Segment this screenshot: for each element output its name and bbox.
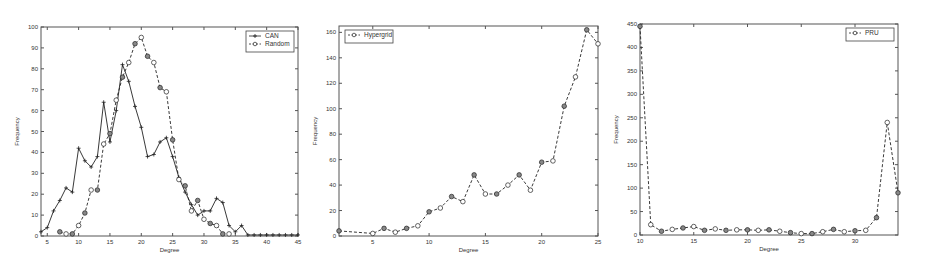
y-tick-label: 350 (627, 68, 638, 74)
chart-panel-can-random: 51015202530354045Degree01020304050607080… (0, 0, 308, 270)
data-point-marker (745, 228, 750, 233)
data-point-marker (370, 231, 375, 236)
data-point-marker (164, 89, 169, 94)
chart-panel-pru: 1015202530Degree050100150200250300350400… (613, 0, 925, 270)
x-tick-label: 10 (637, 238, 644, 244)
y-axis: 020406080100120140160 (326, 29, 598, 239)
y-tick-label: 40 (329, 182, 336, 188)
y-tick-label: 250 (627, 115, 638, 121)
data-point-marker (767, 228, 772, 233)
data-point-marker (89, 188, 94, 193)
x-axis-label: Degree (459, 247, 479, 253)
x-tick-label: 10 (75, 239, 82, 245)
legend-label: PRU (865, 29, 879, 36)
data-point-marker (596, 42, 601, 47)
data-point-marker (382, 226, 387, 231)
y-tick-label: 20 (329, 208, 336, 214)
data-point-marker (539, 160, 544, 165)
data-point-marker (139, 125, 143, 129)
data-point-marker (438, 206, 443, 211)
data-point-marker (83, 211, 88, 216)
data-point-marker (799, 231, 804, 236)
data-point-marker (517, 173, 522, 178)
data-point-marker (670, 227, 675, 232)
x-tick-label: 25 (798, 238, 805, 244)
legend-label: Random (265, 40, 290, 47)
y-tick-label: 50 (630, 209, 637, 215)
data-point-marker (76, 223, 81, 228)
y-tick-label: 150 (627, 162, 638, 168)
data-point-marker (337, 229, 342, 234)
data-point-marker (170, 138, 175, 143)
y-tick-label: 160 (326, 29, 337, 35)
y-tick-label: 300 (627, 91, 638, 97)
degree-distribution-chart-pru: 1015202530Degree050100150200250300350400… (613, 0, 925, 270)
data-point-marker (208, 209, 212, 213)
chart-panel-hypergrid: 510152025Degree020406080100120140160Freq… (308, 0, 613, 270)
data-point-marker (52, 209, 56, 213)
data-point-marker (177, 177, 182, 182)
data-point-marker (681, 226, 686, 231)
data-point-marker (183, 190, 187, 194)
data-point-marker (171, 155, 175, 159)
data-point-marker (58, 198, 62, 202)
y-tick-label: 400 (627, 44, 638, 50)
data-point-marker (70, 232, 75, 237)
data-point-marker (202, 217, 207, 222)
data-point-marker (393, 230, 398, 235)
data-point-marker (713, 227, 718, 232)
y-tick-label: 30 (31, 170, 38, 176)
x-tick-label: 15 (107, 239, 114, 245)
x-tick-label: 20 (138, 239, 145, 245)
data-point-marker (777, 229, 782, 234)
data-point-marker (427, 210, 432, 215)
x-axis: 510152025 (371, 26, 602, 245)
data-point-marker (120, 75, 125, 80)
y-tick-label: 90 (31, 45, 38, 51)
data-point-marker (404, 226, 409, 231)
data-point-marker (208, 221, 213, 226)
y-tick-label: 50 (31, 129, 38, 135)
data-point-marker (58, 230, 63, 235)
degree-distribution-chart-can-random: 51015202530354045Degree01020304050607080… (0, 0, 308, 270)
data-point-marker (152, 60, 157, 65)
data-point-marker (659, 229, 664, 234)
y-tick-label: 100 (326, 106, 337, 112)
data-point-marker (788, 230, 793, 235)
legend-marker-icon (352, 33, 356, 37)
legend-label: Hypergrid (364, 31, 393, 39)
x-tick-label: 10 (426, 239, 433, 245)
y-tick-label: 80 (329, 131, 336, 137)
y-tick-label: 0 (333, 233, 337, 239)
x-tick-label: 30 (201, 239, 208, 245)
data-point-marker (214, 223, 219, 228)
data-point-marker (77, 146, 81, 150)
y-tick-label: 70 (31, 87, 38, 93)
data-point-marker (820, 229, 825, 234)
y-tick-label: 80 (31, 66, 38, 72)
y-tick-label: 0 (35, 233, 39, 239)
x-tick-label: 15 (482, 239, 489, 245)
y-tick-label: 60 (31, 108, 38, 114)
legend: PRU (846, 28, 894, 41)
y-tick-label: 140 (326, 55, 337, 61)
x-tick-label: 30 (852, 238, 859, 244)
y-tick-label: 450 (627, 21, 638, 27)
data-point-marker (133, 104, 137, 108)
data-point-marker (158, 85, 163, 90)
data-point-marker (562, 104, 567, 109)
legend-label: CAN (265, 32, 279, 39)
data-point-marker (831, 227, 836, 232)
y-axis: 050100150200250300350400450 (627, 21, 898, 238)
data-point-marker (102, 100, 106, 104)
y-tick-label: 100 (627, 185, 638, 191)
y-tick-label: 10 (31, 212, 38, 218)
data-point-marker (874, 215, 879, 220)
x-tick-label: 15 (690, 238, 697, 244)
data-point-marker (183, 184, 188, 189)
data-point-marker (139, 35, 144, 40)
x-tick-label: 20 (744, 238, 751, 244)
data-point-marker (64, 232, 69, 237)
data-point-marker (638, 24, 643, 29)
x-tick-label: 40 (263, 239, 270, 245)
